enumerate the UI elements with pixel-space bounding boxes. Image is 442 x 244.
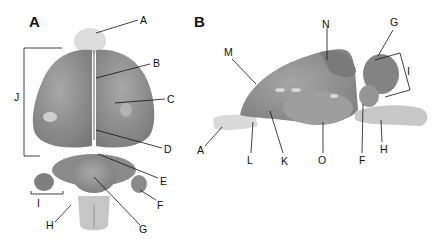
dorsal-label-f: F [157,200,163,211]
lateral-label-f: F [359,155,365,166]
lateral-label-g: G [390,17,398,28]
lateral-label-l: L [247,155,253,166]
dorsal-brain [33,28,154,230]
lateral-brain [213,49,427,130]
dorsal-label-h: H [46,220,54,231]
panel-letter-a: A [29,13,40,30]
lateral-label-k: K [281,156,288,167]
lateral-label-a: A [197,145,204,156]
lateral-label-o: O [318,155,326,166]
brain-illustration [0,0,442,244]
figure-canvas: A B A B C D E F G H I J A L K O F H M N … [0,0,442,244]
lateral-label-h: H [380,144,388,155]
dorsal-label-b: B [153,58,160,69]
panel-letter-b: B [194,13,205,30]
dorsal-label-d: D [164,144,172,155]
dorsal-label-g: G [139,224,147,235]
dorsal-label-j: J [14,92,19,103]
dorsal-label-i: I [37,198,40,209]
lateral-label-i: I [407,66,410,77]
lateral-label-m: M [224,47,233,58]
dorsal-label-e: E [160,176,167,187]
lateral-label-n: N [322,19,330,30]
dorsal-label-a: A [140,15,147,26]
dorsal-label-c: C [167,94,175,105]
